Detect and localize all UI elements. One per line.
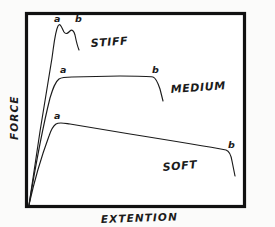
- marker-soft-b: b: [228, 139, 235, 150]
- x-axis-label: EXTENTION: [101, 210, 178, 225]
- marker-stiff-a: a: [54, 13, 61, 24]
- curve-label-stiff: STIFF: [90, 34, 128, 50]
- y-axis-label: FORCE: [8, 95, 20, 140]
- marker-medium-b: b: [152, 64, 159, 75]
- marker-stiff-b: b: [75, 13, 82, 24]
- force-extension-chart: a b STIFF a b MEDIUM a b SOFT FORCE EXTE…: [0, 0, 275, 227]
- marker-medium-a: a: [60, 64, 67, 75]
- chart-canvas: a b STIFF a b MEDIUM a b SOFT FORCE EXTE…: [0, 0, 275, 227]
- marker-soft-a: a: [54, 110, 61, 121]
